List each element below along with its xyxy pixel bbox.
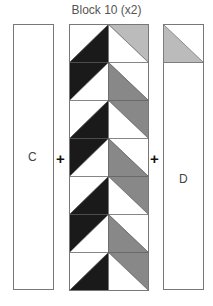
panel-d-top-square	[164, 25, 204, 63]
block-10-patchwork	[0, 0, 213, 306]
center-block	[70, 25, 149, 291]
